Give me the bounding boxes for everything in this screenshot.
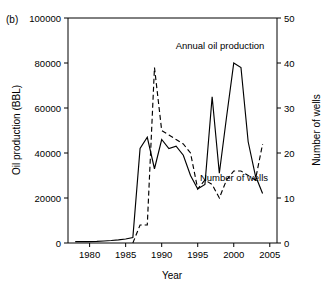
svg-text:80000: 80000 bbox=[35, 58, 61, 69]
y-axis-right-ticks bbox=[277, 18, 281, 243]
y-axis-right-label: Number of wells bbox=[311, 94, 322, 166]
svg-text:20000: 20000 bbox=[35, 193, 61, 204]
figure-panel-b: (b) 020000400006000080000100000 01020304… bbox=[0, 0, 333, 287]
svg-text:0: 0 bbox=[56, 238, 61, 249]
svg-text:60000: 60000 bbox=[35, 103, 61, 114]
chart-svg: 020000400006000080000100000 01020304050 … bbox=[0, 0, 333, 287]
y-axis-left-ticks bbox=[64, 18, 68, 243]
plot-frame bbox=[68, 18, 277, 243]
svg-text:2005: 2005 bbox=[259, 249, 280, 260]
svg-text:10: 10 bbox=[284, 193, 295, 204]
x-axis-label: Year bbox=[162, 270, 183, 281]
svg-text:1980: 1980 bbox=[79, 249, 100, 260]
svg-text:100000: 100000 bbox=[29, 13, 61, 24]
svg-text:50: 50 bbox=[284, 13, 295, 24]
svg-text:1985: 1985 bbox=[115, 249, 136, 260]
series-annual-oil-production bbox=[75, 63, 262, 242]
svg-text:0: 0 bbox=[284, 238, 289, 249]
y-axis-left-ticklabels: 020000400006000080000100000 bbox=[29, 13, 61, 249]
svg-text:1995: 1995 bbox=[187, 249, 208, 260]
y-axis-left-label: Oil production (BBL) bbox=[11, 85, 22, 175]
x-axis-ticks bbox=[90, 243, 270, 247]
annotation-number-of-wells: Number of wells bbox=[200, 172, 268, 183]
svg-text:40000: 40000 bbox=[35, 148, 61, 159]
x-axis-ticklabels: 198019851990199520002005 bbox=[79, 249, 280, 260]
annotation-annual-oil-production: Annual oil production bbox=[176, 40, 265, 51]
svg-text:2000: 2000 bbox=[223, 249, 244, 260]
svg-text:40: 40 bbox=[284, 58, 295, 69]
svg-text:1990: 1990 bbox=[151, 249, 172, 260]
y-axis-right-ticklabels: 01020304050 bbox=[284, 13, 295, 249]
svg-text:30: 30 bbox=[284, 103, 295, 114]
svg-text:20: 20 bbox=[284, 148, 295, 159]
